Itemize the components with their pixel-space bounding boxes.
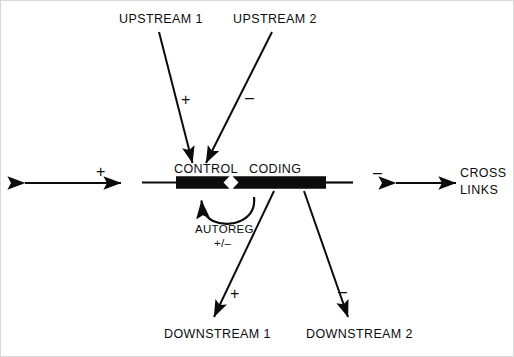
upstream-2-label: UPSTREAM 2 (233, 12, 317, 26)
upstream-2-group: UPSTREAM 2 – (206, 12, 317, 163)
right-flank-sign: – (373, 164, 382, 181)
autoregulation-loop-arrow (202, 197, 255, 224)
coding-region-block (233, 176, 327, 189)
right-flank-group: – CROSS LINKS (373, 164, 506, 197)
left-flank-sign: + (96, 163, 105, 180)
downstream-1-sign: + (230, 285, 239, 302)
diagram-canvas: CONTROL CODING UPSTREAM 1 + UPSTREAM 2 –… (0, 0, 514, 357)
control-region-block (176, 176, 230, 189)
autoregulation-sign: +/– (214, 237, 232, 249)
cross-links-label-line1: CROSS (460, 166, 506, 180)
upstream-2-sign: – (245, 89, 254, 106)
downstream-1-label: DOWNSTREAM 1 (164, 327, 271, 341)
downstream-1-arrow (214, 191, 274, 317)
left-flank-group: + (25, 163, 121, 183)
autoregulation-group: AUTOREG +/– (195, 197, 254, 249)
cross-links-label-line2: LINKS (460, 183, 498, 197)
upstream-1-group: UPSTREAM 1 + (119, 12, 203, 163)
coding-region-label: CODING (249, 162, 301, 176)
upstream-1-sign: + (181, 91, 190, 108)
gene-locus: CONTROL CODING (142, 162, 353, 189)
upstream-1-label: UPSTREAM 1 (119, 12, 203, 26)
downstream-1-group: + DOWNSTREAM 1 (164, 191, 274, 341)
autoregulation-label: AUTOREG (195, 223, 254, 235)
downstream-2-sign: – (338, 283, 347, 300)
downstream-2-label: DOWNSTREAM 2 (306, 327, 413, 341)
gene-regulation-diagram: CONTROL CODING UPSTREAM 1 + UPSTREAM 2 –… (1, 1, 514, 357)
downstream-2-group: – DOWNSTREAM 2 (304, 191, 413, 341)
control-region-label: CONTROL (174, 162, 238, 176)
upstream-2-arrow (206, 32, 272, 163)
